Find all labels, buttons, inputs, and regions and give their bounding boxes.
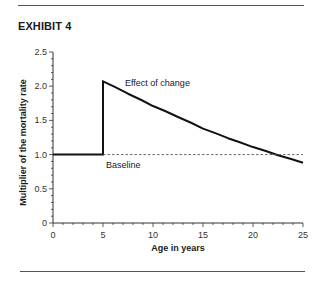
x-tick-label: 15 [198,230,208,240]
x-tick-label: 25 [298,230,308,240]
bottom-rule [20,271,305,272]
y-tick-label: 0.5 [34,184,47,194]
y-axis-title: Multiplier of the mortality rate [18,79,28,206]
x-tick-label: 20 [248,230,258,240]
chart: 00.51.01.52.02.50510152025Age in yearsMu… [0,0,322,283]
annotation-baseline: Baseline [106,160,141,170]
x-tick-label: 5 [100,230,105,240]
x-axis-title: Age in years [151,243,205,253]
y-tick-label: 1.0 [34,150,47,160]
y-tick-label: 2.5 [34,47,47,57]
y-tick-label: 0 [42,218,47,228]
series-effect-of-change [53,81,303,162]
y-tick-label: 2.0 [34,81,47,91]
annotation-effect-of-change: Effect of change [125,78,190,88]
series-layer [53,81,303,162]
x-tick-label: 0 [50,230,55,240]
x-tick-label: 10 [148,230,158,240]
y-tick-label: 1.5 [34,115,47,125]
